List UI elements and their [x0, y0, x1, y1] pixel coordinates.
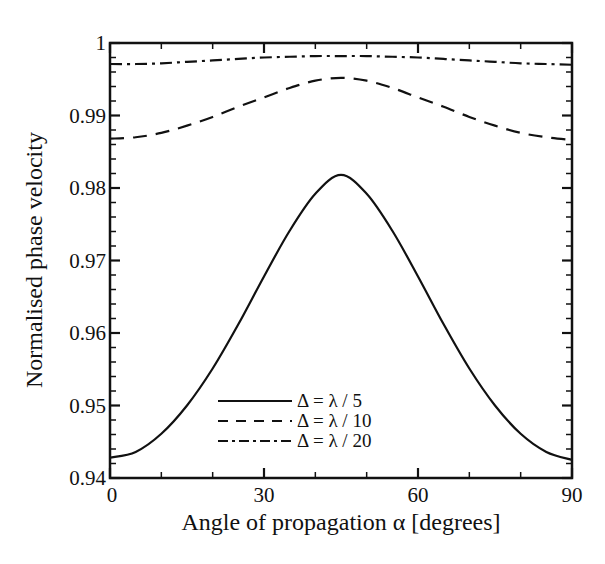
- legend-label-2: Δ = λ / 10: [297, 410, 371, 431]
- legend-label-3: Δ = λ / 20: [297, 430, 371, 451]
- chart: 03060900.940.950.960.970.980.991 Angle o…: [0, 0, 605, 564]
- x-axis-title: Angle of propagation α [degrees]: [181, 509, 500, 535]
- legend-label-1: Δ = λ / 5: [297, 390, 362, 411]
- y-tick-label: 0.94: [69, 466, 106, 490]
- x-tick-label: 90: [562, 483, 583, 507]
- y-tick-label: 0.96: [69, 321, 106, 345]
- y-tick-label: 0.97: [69, 249, 106, 273]
- y-tick-label: 0.98: [69, 176, 106, 200]
- y-axis-title: Normalised phase velocity: [21, 132, 47, 388]
- legend: Δ = λ / 5 Δ = λ / 10 Δ = λ / 20: [218, 390, 371, 451]
- y-tick-label: 0.99: [69, 104, 106, 128]
- y-tick-label: 0.95: [69, 394, 106, 418]
- x-tick-label: 30: [254, 483, 275, 507]
- series-line-2: [110, 78, 572, 140]
- x-tick-label: 0: [107, 483, 118, 507]
- series-line-3: [110, 56, 572, 65]
- y-tick-label: 1: [96, 31, 107, 55]
- x-tick-label: 60: [408, 483, 429, 507]
